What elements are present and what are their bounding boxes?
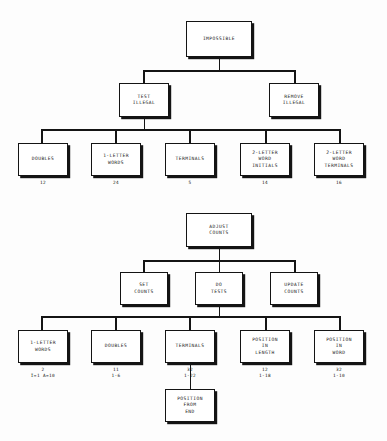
node-remove-illegal[interactable]: REMOVE ILLEGAL [269, 83, 319, 117]
connector-drop-do-tests [219, 260, 221, 272]
node-update-counts[interactable]: UPDATE COUNTS [270, 272, 318, 305]
node-label: ADJUST COUNTS [207, 224, 230, 237]
node-label: DOUBLES [30, 156, 57, 162]
node-1letter-words-2[interactable]: 1-LETTER WORDS [18, 330, 68, 363]
node-2letter-word-terminals[interactable]: 2-LETTER WORD TERMINALS [314, 143, 364, 176]
node-test-illegal[interactable]: TEST ILLEGAL [119, 83, 169, 117]
count-doubles-1: 12 [18, 180, 68, 186]
node-label: TERMINALS [174, 156, 207, 162]
node-label: POSITION FROM END [175, 396, 205, 415]
node-label: TERMINALS [174, 343, 207, 349]
node-terminals-1[interactable]: TERMINALS [165, 143, 215, 176]
connector-drop-position-length [265, 316, 267, 330]
node-impossible[interactable]: IMPOSSIBLE [186, 21, 252, 57]
node-position-in-word[interactable]: POSITION IN WORD [314, 330, 364, 363]
node-label: SET COUNTS [132, 282, 155, 295]
count-2letter-word-terminals: 16 [314, 180, 364, 186]
connector-drop-2letter-terminals [339, 129, 341, 143]
connector-drop-1letter-2 [41, 316, 43, 330]
diagram-canvas: IMPOSSIBLE TEST ILLEGAL REMOVE ILLEGAL D… [0, 0, 387, 441]
node-label: DOUBLES [103, 343, 130, 349]
connector-drop-doubles [41, 129, 43, 143]
node-label: TEST ILLEGAL [131, 94, 158, 107]
node-set-counts[interactable]: SET COUNTS [120, 272, 168, 305]
node-doubles-1[interactable]: DOUBLES [18, 143, 68, 176]
connector-drop-terminals [189, 129, 191, 143]
count-2letter-word-initials: 14 [240, 180, 290, 186]
connector-drop-set-counts [143, 260, 145, 272]
range-terminals-2: 1-22 [165, 373, 215, 379]
node-label: 2-LETTER WORD TERMINALS [323, 150, 356, 169]
node-position-from-end[interactable]: POSITION FROM END [165, 389, 215, 422]
range-position-in-word: 1-10 [314, 373, 364, 379]
node-adjust-counts[interactable]: ADJUST COUNTS [186, 213, 252, 247]
connector-root-down [219, 57, 221, 71]
node-label: UPDATE COUNTS [282, 282, 305, 295]
node-do-tests[interactable]: DO TESTS [195, 272, 243, 305]
range-doubles-2: 1-6 [91, 373, 141, 379]
connector-bus-level3 [41, 129, 340, 131]
connector-bus-level2 [143, 70, 295, 72]
connector-drop-1letter [115, 129, 117, 143]
range-position-in-length: 1-18 [240, 373, 290, 379]
node-1letter-words-1[interactable]: 1-LETTER WORDS [91, 143, 141, 176]
count-1letter-words-1: 24 [91, 180, 141, 186]
range-1letter-words-2: I=1 A=10 [13, 373, 73, 379]
connector-drop-test [143, 70, 145, 83]
connector-drop-terminals-2 [189, 316, 191, 330]
count-terminals-1: 5 [165, 180, 215, 186]
node-position-in-length[interactable]: POSITION IN LENGTH [240, 330, 290, 363]
node-label: POSITION IN LENGTH [250, 337, 280, 356]
connector-drop-doubles-2 [115, 316, 117, 330]
node-2letter-word-initials[interactable]: 2-LETTER WORD INITIALS [240, 143, 290, 176]
node-label: IMPOSSIBLE [201, 36, 237, 42]
node-label: POSITION IN WORD [324, 337, 354, 356]
node-label: 1-LETTER WORDS [101, 153, 131, 166]
connector-bus-adjust-level3 [41, 316, 340, 318]
node-label: REMOVE ILLEGAL [281, 94, 308, 107]
node-doubles-2[interactable]: DOUBLES [91, 330, 141, 363]
connector-drop-position-word [339, 316, 341, 330]
connector-drop-update-counts [294, 260, 296, 272]
node-label: DO TESTS [209, 282, 229, 295]
connector-drop-2letter-initials [265, 129, 267, 143]
node-label: 1-LETTER WORDS [28, 340, 58, 353]
node-terminals-2[interactable]: TERMINALS [165, 330, 215, 363]
connector-adjust-down [219, 247, 221, 261]
node-label: 2-LETTER WORD INITIALS [250, 150, 280, 169]
connector-drop-remove [294, 70, 296, 83]
